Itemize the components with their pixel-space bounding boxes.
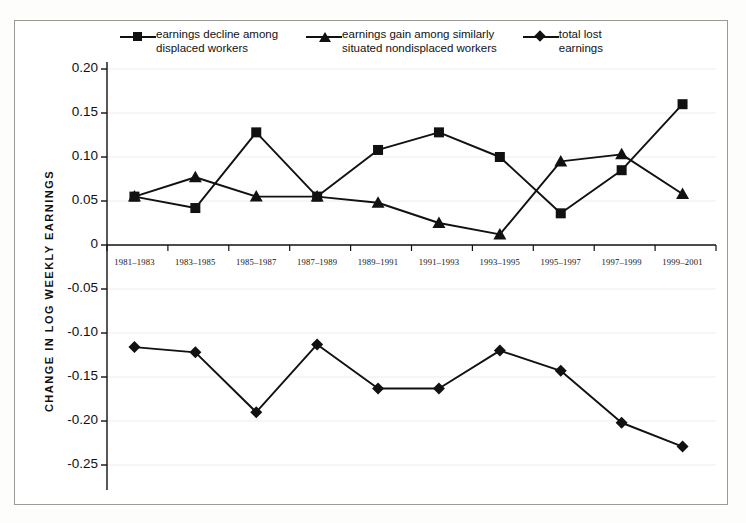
y-tick-label: 0.05 [50, 192, 98, 207]
y-tick-label: 0.15 [50, 104, 98, 119]
legend-entry-earnings-gain: earnings gain among similarly situated n… [306, 28, 497, 55]
x-tick-label: 1985–1987 [225, 257, 287, 267]
chart-legend: earnings decline among displaced workers… [120, 28, 720, 64]
x-tick-label: 1981–1983 [103, 257, 165, 267]
x-tick-label: 1993–1995 [469, 257, 531, 267]
y-tick-label: -0.25 [50, 456, 98, 471]
y-tick-label: -0.05 [50, 280, 98, 295]
x-tick-label: 1999–2001 [652, 257, 714, 267]
x-tick-label: 1995–1997 [530, 257, 592, 267]
x-tick-label: 1983–1985 [164, 257, 226, 267]
x-tick-label: 1991–1993 [408, 257, 470, 267]
triangle-marker-icon [319, 32, 331, 42]
y-tick-label: 0 [50, 236, 98, 251]
diamond-marker-icon [534, 30, 545, 41]
x-tick-label: 1987–1989 [286, 257, 348, 267]
y-tick-label: -0.10 [50, 324, 98, 339]
legend-entry-total-lost: total lost earnings [523, 28, 603, 55]
x-tick-label: 1997–1999 [591, 257, 653, 267]
y-tick-label: -0.20 [50, 412, 98, 427]
legend-entry-earnings-decline: earnings decline among displaced workers [120, 28, 278, 55]
figure-canvas: earnings decline among displaced workers… [0, 0, 746, 523]
square-marker-icon [133, 32, 142, 41]
legend-key-square [120, 30, 156, 44]
legend-label-earnings-decline: earnings decline among displaced workers [156, 28, 278, 55]
legend-key-triangle [306, 30, 342, 44]
legend-label-total-lost: total lost earnings [559, 28, 603, 55]
y-tick-label: 0.20 [50, 60, 98, 75]
legend-key-diamond [523, 30, 559, 44]
x-tick-label: 1989–1991 [347, 257, 409, 267]
legend-label-earnings-gain: earnings gain among similarly situated n… [342, 28, 497, 55]
y-tick-label: 0.10 [50, 148, 98, 163]
y-tick-label: -0.15 [50, 368, 98, 383]
